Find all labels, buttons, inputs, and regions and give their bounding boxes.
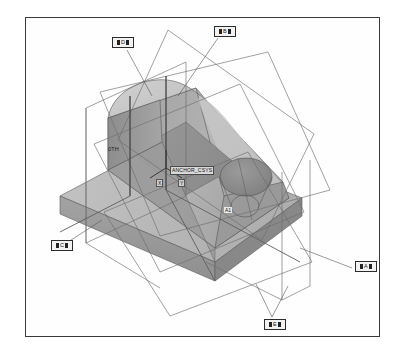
datum-e-bar-left — [269, 322, 272, 327]
leader-to-datum-b — [178, 38, 218, 96]
model-geometry-svg — [0, 0, 403, 355]
datum-e-bar-right — [278, 322, 281, 327]
datum-label-e[interactable]: E — [264, 319, 286, 330]
datum-b-letter: B — [223, 28, 227, 34]
datum-label-b[interactable]: B — [214, 26, 236, 37]
datum-d-bar-left — [117, 40, 120, 45]
model-canvas[interactable] — [0, 0, 403, 355]
leader-to-datum-a — [300, 248, 352, 268]
datum-e-letter: E — [273, 321, 277, 327]
datum-a-bar-right — [369, 264, 372, 269]
datum-b-bar-left — [219, 29, 222, 34]
datum-a-letter: A — [364, 263, 368, 269]
datum-d-letter: D — [121, 39, 125, 45]
datum-label-d[interactable]: D — [112, 37, 134, 48]
datum-label-a[interactable]: A — [355, 261, 377, 272]
feature-label-0th: 0TH — [108, 146, 119, 153]
leader-to-datum-e — [256, 284, 272, 317]
cad-model-viewport[interactable]: D B C A E ANCHOR_CSYS X Y 0TH A1 — [0, 0, 403, 355]
hole-label-a1: A1 — [224, 207, 232, 213]
datum-d-bar-right — [126, 40, 129, 45]
csys-axis-y-label: Y — [178, 179, 185, 187]
datum-label-c[interactable]: C — [51, 240, 73, 251]
countersink-outer — [220, 158, 272, 196]
datum-c-bar-right — [65, 243, 68, 248]
leader-to-datum-e-2 — [272, 286, 288, 317]
datum-c-bar-left — [56, 243, 59, 248]
csys-axis-x-label: X — [156, 179, 163, 187]
datum-b-bar-right — [228, 29, 231, 34]
datum-plane-right-box-2 — [282, 160, 310, 300]
datum-a-bar-left — [360, 264, 363, 269]
datum-c-letter: C — [60, 242, 64, 248]
csys-name-label[interactable]: ANCHOR_CSYS — [170, 166, 214, 175]
